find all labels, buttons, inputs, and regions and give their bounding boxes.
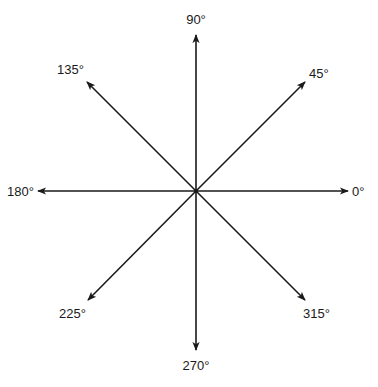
label-90-deg: 90° xyxy=(186,12,206,27)
arrow-315-deg xyxy=(196,191,305,300)
origin-point xyxy=(194,189,198,193)
label-0-deg: 0° xyxy=(352,184,364,199)
angle-diagram: 0°45°90°135°180°225°270°315° xyxy=(0,0,378,387)
label-270-deg: 270° xyxy=(183,358,210,373)
label-225-deg: 225° xyxy=(59,306,86,321)
label-180-deg: 180° xyxy=(7,184,34,199)
arrow-45-deg xyxy=(196,82,305,191)
labels-group: 0°45°90°135°180°225°270°315° xyxy=(7,12,364,373)
arrows-group xyxy=(38,35,348,350)
label-45-deg: 45° xyxy=(309,66,329,81)
arrow-135-deg xyxy=(87,82,196,191)
arrow-225-deg xyxy=(88,191,196,300)
label-315-deg: 315° xyxy=(303,306,330,321)
label-135-deg: 135° xyxy=(57,62,84,77)
